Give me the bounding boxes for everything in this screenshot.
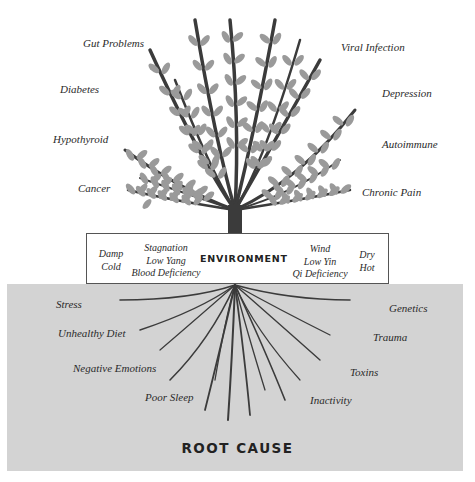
trunk	[228, 205, 242, 235]
env-wind: Wind	[285, 243, 355, 256]
branch	[235, 20, 275, 210]
environment-col-dry-hot: Dry Hot	[352, 249, 382, 274]
symptom-cancer: Cancer	[78, 183, 110, 194]
root-cause-title: ROOT CAUSE	[0, 440, 475, 456]
symptom-diabetes: Diabetes	[60, 84, 99, 95]
cause-inactivity: Inactivity	[310, 395, 352, 406]
env-stagnation: Stagnation	[124, 242, 208, 255]
leaf	[339, 182, 353, 195]
environment-title: ENVIRONMENT	[200, 253, 288, 264]
root	[120, 285, 235, 300]
root	[235, 285, 320, 360]
root	[235, 285, 350, 300]
env-dry: Dry	[352, 249, 382, 262]
branches	[125, 20, 355, 210]
symptom-hypothyroid: Hypothyroid	[53, 134, 108, 145]
cause-unhealthy-diet: Unhealthy Diet	[58, 328, 126, 339]
environment-col-stagnation: Stagnation Low Yang Blood Deficiency	[124, 242, 208, 280]
cause-stress: Stress	[56, 299, 82, 310]
symptom-autoimmune: Autoimmune	[382, 139, 438, 150]
leaf	[330, 157, 342, 171]
env-hot: Hot	[352, 262, 382, 275]
symptom-viral-infection: Viral Infection	[341, 42, 405, 53]
branch	[230, 20, 237, 210]
leaf	[124, 182, 137, 196]
cause-genetics: Genetics	[389, 303, 427, 314]
env-blood-deficiency: Blood Deficiency	[124, 267, 208, 280]
cause-toxins: Toxins	[350, 367, 378, 378]
falling-leaf	[141, 197, 153, 210]
root	[140, 285, 235, 330]
root	[235, 285, 250, 415]
symptom-depression: Depression	[382, 88, 432, 99]
cause-trauma: Trauma	[373, 332, 407, 343]
env-low-yang: Low Yang	[124, 255, 208, 268]
env-low-yin: Low Yin	[285, 256, 355, 269]
environment-col-wind: Wind Low Yin Qi Deficiency	[285, 243, 355, 281]
symptom-gut-problems: Gut Problems	[83, 38, 144, 49]
cause-negative-emotions: Negative Emotions	[73, 363, 156, 374]
cause-poor-sleep: Poor Sleep	[145, 392, 194, 403]
symptom-chronic-pain: Chronic Pain	[362, 187, 421, 198]
env-qi-deficiency: Qi Deficiency	[285, 268, 355, 281]
root	[235, 285, 265, 390]
